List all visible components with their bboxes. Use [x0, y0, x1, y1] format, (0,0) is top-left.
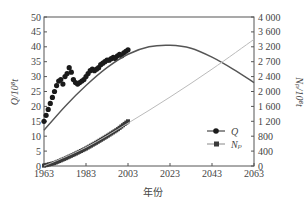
q-data-point	[52, 89, 57, 94]
q-data-point	[54, 83, 59, 88]
q-data-point	[41, 119, 46, 124]
legend-np-marker	[214, 142, 219, 147]
q-data-point	[67, 65, 72, 70]
x-tick-label: 1983	[76, 168, 96, 179]
x-tick-label: 2063	[244, 168, 264, 179]
legend-q-marker	[213, 128, 219, 134]
y-left-tick-label: 30	[31, 71, 41, 82]
q-data-point	[125, 47, 130, 52]
y-right-tick-label: 1 600	[258, 101, 281, 112]
x-tick-label: 1963	[34, 168, 54, 179]
y-left-axis-title: Q/10⁸t	[9, 79, 20, 105]
y-right-tick-label: 2 400	[258, 71, 281, 82]
q-model-line	[44, 45, 254, 130]
q-data-point	[48, 101, 53, 106]
y-left-tick-label: 25	[31, 86, 41, 97]
y-right-tick-label: 3 200	[258, 41, 281, 52]
y-left-tick-label: 35	[31, 56, 41, 67]
legend-np-label: Nₚ	[230, 139, 242, 150]
y-left-tick-label: 20	[31, 101, 41, 112]
y-right-tick-label: 1 200	[258, 116, 281, 127]
y-right-tick-label: 4 000	[258, 12, 281, 23]
x-tick-label: 2023	[160, 168, 180, 179]
chart: 0510152025303540455004008001 2001 6002 0…	[0, 0, 308, 212]
x-axis-title: 年份	[143, 186, 163, 198]
np-model-line	[44, 39, 254, 166]
x-tick-label: 2043	[202, 168, 222, 179]
q-data-point	[46, 107, 51, 112]
q-data-point	[44, 113, 49, 118]
y-left-tick-label: 50	[31, 12, 41, 23]
y-right-tick-label: 2 700	[258, 56, 281, 67]
y-right-tick-label: 2 000	[258, 86, 281, 97]
legend-q-label: Q	[231, 126, 239, 137]
y-left-tick-label: 15	[31, 116, 41, 127]
y-left-tick-label: 10	[31, 131, 41, 142]
q-data-point	[60, 81, 65, 86]
q-data-point	[50, 95, 55, 100]
q-data-point	[69, 70, 74, 75]
y-right-tick-label: 3 600	[258, 26, 281, 37]
y-left-tick-label: 5	[36, 146, 41, 157]
y-left-tick-label: 45	[31, 26, 41, 37]
q-data-point	[58, 77, 63, 82]
x-tick-label: 2003	[118, 168, 138, 179]
y-right-axis-title: Nₚ/10⁸t	[294, 76, 305, 107]
y-left-tick-label: 40	[31, 41, 41, 52]
y-right-tick-label: 400	[258, 146, 273, 157]
y-right-tick-label: 800	[258, 131, 273, 142]
